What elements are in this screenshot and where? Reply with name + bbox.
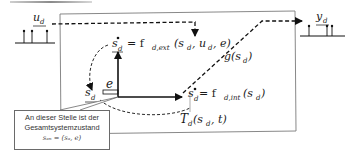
svg-text:): ) xyxy=(260,87,265,100)
svg-text:g: g xyxy=(224,50,231,63)
input-arrow xyxy=(52,22,195,36)
svg-text:d: d xyxy=(323,17,328,25)
svg-text:(s: (s xyxy=(243,87,253,100)
input-label: u d xyxy=(33,11,46,26)
elapsed-time-marker: e xyxy=(103,77,118,94)
svg-text:): ) xyxy=(247,50,252,63)
output-label: y d xyxy=(315,10,329,25)
ext-transition-equation: s d = f d,ext (s d , u d , e) xyxy=(112,37,231,53)
svg-text:, e): , e) xyxy=(213,37,231,50)
int-transition-equation: s d = f d,int (s d ) xyxy=(188,87,265,103)
svg-text:d: d xyxy=(40,18,45,26)
time-advance-label: T d (s d , t) xyxy=(180,112,227,128)
output-event-train xyxy=(300,25,345,36)
svg-text:= f: = f xyxy=(127,37,145,50)
svg-text:(s: (s xyxy=(193,113,203,126)
svg-text:y: y xyxy=(315,10,323,23)
callout-box: An dieser Stelle ist der Gesamtsystemzus… xyxy=(14,110,110,150)
svg-text:(s: (s xyxy=(174,37,184,50)
svg-text:d,ext: d,ext xyxy=(152,44,170,52)
svg-text:, u: , u xyxy=(192,37,206,50)
svg-text:, t): , t) xyxy=(211,113,227,126)
output-function-label: g (s d ) xyxy=(224,50,252,65)
time-advance-curve xyxy=(100,100,190,115)
svg-text:(s: (s xyxy=(231,50,241,63)
callout-formula: sₐₙ = (sₐ, e) xyxy=(15,133,109,143)
callout-line-2: Gesamtsystemzustand xyxy=(15,123,109,133)
callout-line-1: An dieser Stelle ist der xyxy=(15,113,109,123)
top-bar xyxy=(10,1,92,3)
svg-text:= f: = f xyxy=(199,87,217,100)
input-event-train xyxy=(15,30,55,43)
svg-text:d,int: d,int xyxy=(224,94,240,102)
svg-text:e: e xyxy=(106,77,113,91)
svg-text:d: d xyxy=(91,94,96,102)
